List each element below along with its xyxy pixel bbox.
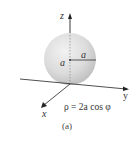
z-label: z bbox=[60, 11, 64, 21]
radius-label: a bbox=[81, 50, 86, 60]
z-axis-arrow-icon bbox=[68, 13, 72, 19]
x-label: x bbox=[42, 109, 46, 119]
center-label: a bbox=[60, 58, 65, 68]
equation: ρ = 2a cos φ bbox=[64, 102, 111, 112]
y-label: y bbox=[123, 91, 128, 101]
figure-caption: (a) bbox=[62, 121, 72, 131]
